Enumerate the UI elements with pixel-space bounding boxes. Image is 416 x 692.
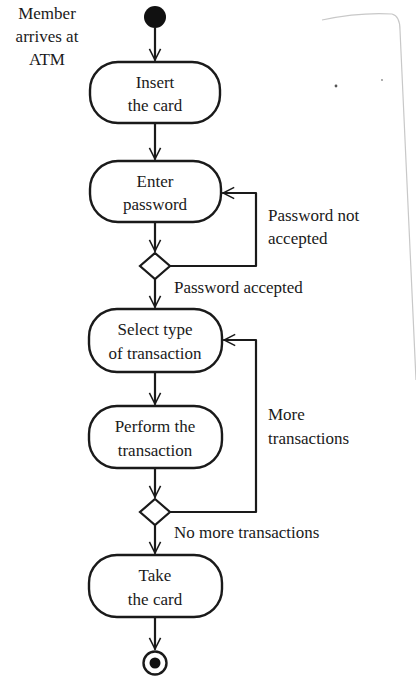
speck-artifact (335, 85, 338, 88)
activity-take-card: Take the card (89, 555, 222, 617)
guard-label: More (268, 405, 305, 424)
guard-label: No more transactions (174, 523, 319, 542)
activity-select-transaction: Select type of transaction (89, 309, 222, 372)
activity-insert-card: Insert the card (90, 62, 220, 123)
activity-label: Perform the (115, 417, 196, 436)
guard-label: accepted (268, 229, 328, 248)
activity-label: of transaction (109, 344, 202, 363)
guard-label: Password not (268, 206, 359, 225)
start-note-line: Member (18, 4, 76, 23)
start-note: Member arrives at ATM (16, 4, 79, 69)
guard-label: transactions (268, 429, 349, 448)
activity-label: Take (139, 566, 172, 585)
start-note-line: ATM (29, 50, 65, 69)
activity-label: Select type (117, 320, 192, 339)
initial-node-icon (144, 6, 166, 28)
start-note-line: arrives at (16, 27, 79, 46)
activity-label: transaction (118, 441, 193, 460)
activity-perform-transaction: Perform the transaction (89, 406, 222, 468)
speck-artifact (381, 79, 383, 81)
activity-label: the card (128, 590, 183, 609)
activity-label: Insert (136, 73, 175, 92)
decision-password-diamond (140, 253, 170, 279)
atm-activity-diagram: Member arrives at ATM Insert the card En… (0, 0, 416, 692)
page-edge-artifact (322, 14, 416, 380)
activity-enter-password: Enter password (90, 161, 221, 222)
activity-label: password (123, 195, 188, 214)
guard-label: Password accepted (174, 278, 303, 297)
decision-more-transactions-diamond (140, 499, 170, 525)
activity-label: the card (128, 96, 183, 115)
activity-label: Enter (137, 172, 174, 191)
final-node-icon (144, 652, 167, 675)
